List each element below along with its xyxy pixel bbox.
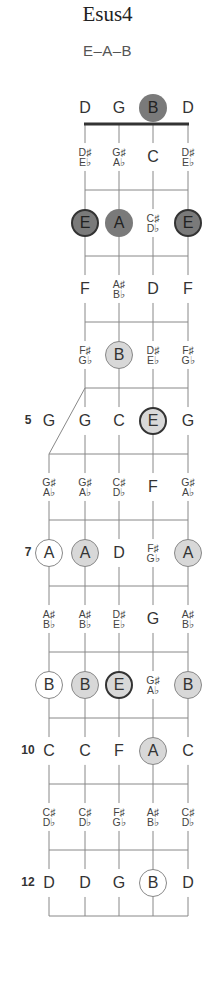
- note-b: B: [105, 341, 133, 369]
- note-label: G: [113, 874, 125, 892]
- note-label: B: [148, 99, 159, 117]
- note-accidental: G♯A♭: [35, 473, 63, 501]
- note-label: C: [182, 742, 194, 760]
- flat-label: G♭: [146, 553, 159, 563]
- note-label: D: [79, 99, 91, 117]
- note-g: G: [35, 407, 63, 435]
- fret-number-12: 12: [18, 875, 38, 889]
- note-a: A: [139, 737, 167, 765]
- fret-number-7: 7: [18, 545, 38, 559]
- enharmonic-label: A♯B♭: [113, 279, 125, 299]
- note-e: E: [139, 407, 167, 435]
- note-b: B: [35, 671, 63, 699]
- note-label: F: [183, 280, 193, 298]
- enharmonic-label: C♯D♭: [79, 807, 92, 827]
- flat-label: A♭: [113, 157, 125, 167]
- flat-label: B♭: [113, 289, 125, 299]
- flat-label: B♭: [182, 619, 194, 629]
- note-label: C: [43, 742, 55, 760]
- note-e: E: [105, 671, 133, 699]
- note-label: A: [114, 214, 125, 232]
- note-label: D: [79, 874, 91, 892]
- note-label: G: [147, 610, 159, 628]
- note-accidental: A♯B♭: [139, 803, 167, 831]
- note-e: E: [174, 209, 202, 237]
- note-label: F: [80, 280, 90, 298]
- flat-label: E♭: [79, 157, 91, 167]
- note-accidental: D♯E♭: [174, 143, 202, 171]
- note-c: C: [174, 737, 202, 765]
- note-label: E: [183, 214, 194, 232]
- note-a: A: [105, 209, 133, 237]
- enharmonic-label: A♯B♭: [79, 609, 91, 629]
- note-f: F: [71, 275, 99, 303]
- note-label: B: [114, 346, 125, 364]
- enharmonic-label: G♯A♭: [146, 675, 159, 695]
- note-b: B: [71, 671, 99, 699]
- enharmonic-label: C♯D♭: [43, 807, 56, 827]
- flat-label: D♭: [43, 817, 56, 827]
- note-accidental: F♯G♭: [174, 341, 202, 369]
- note-label: E: [148, 412, 159, 430]
- note-label: F: [148, 478, 158, 496]
- note-g: G: [139, 605, 167, 633]
- enharmonic-label: G♯A♭: [112, 147, 125, 167]
- note-label: G: [182, 412, 194, 430]
- note-label: G: [79, 412, 91, 430]
- note-label: G: [113, 99, 125, 117]
- note-accidental: F♯G♭: [139, 539, 167, 567]
- note-g: G: [105, 94, 133, 122]
- note-label: A: [148, 742, 159, 760]
- note-accidental: F♯G♭: [71, 341, 99, 369]
- flat-label: A♭: [147, 685, 159, 695]
- note-label: D: [182, 874, 194, 892]
- note-d: D: [174, 869, 202, 897]
- fret-number-10: 10: [18, 743, 38, 757]
- note-accidental: F♯G♭: [105, 803, 133, 831]
- note-label: D: [147, 280, 159, 298]
- enharmonic-label: D♯E♭: [182, 147, 195, 167]
- flat-label: D♭: [113, 487, 126, 497]
- flat-label: B♭: [43, 619, 55, 629]
- flat-label: G♭: [181, 355, 194, 365]
- enharmonic-label: F♯G♭: [78, 345, 91, 365]
- enharmonic-label: C♯D♭: [147, 213, 160, 233]
- note-c: C: [35, 737, 63, 765]
- note-label: C: [79, 742, 91, 760]
- note-accidental: A♯B♭: [174, 605, 202, 633]
- note-accidental: D♯E♭: [139, 341, 167, 369]
- note-label: A: [183, 544, 194, 562]
- note-label: E: [114, 676, 125, 694]
- enharmonic-label: D♯E♭: [147, 345, 160, 365]
- note-d: D: [174, 94, 202, 122]
- note-g: G: [105, 869, 133, 897]
- note-label: A: [44, 544, 55, 562]
- enharmonic-label: F♯G♭: [112, 807, 125, 827]
- note-c: C: [139, 143, 167, 171]
- enharmonic-label: D♯E♭: [113, 609, 126, 629]
- note-label: E: [80, 214, 91, 232]
- note-label: C: [147, 148, 159, 166]
- note-accidental: G♯A♭: [71, 473, 99, 501]
- note-d: D: [35, 869, 63, 897]
- note-label: B: [183, 676, 194, 694]
- enharmonic-label: A♯B♭: [182, 609, 194, 629]
- note-accidental: G♯A♭: [174, 473, 202, 501]
- note-d: D: [139, 275, 167, 303]
- flat-label: A♭: [43, 487, 55, 497]
- enharmonic-label: A♯B♭: [43, 609, 55, 629]
- fret-number-5: 5: [18, 413, 38, 427]
- flat-label: G♭: [78, 355, 91, 365]
- note-f: F: [105, 737, 133, 765]
- note-d: D: [105, 539, 133, 567]
- note-label: G: [43, 412, 55, 430]
- note-g: G: [71, 407, 99, 435]
- note-label: A: [80, 544, 91, 562]
- note-label: B: [148, 874, 159, 892]
- note-c: C: [105, 407, 133, 435]
- note-accidental: G♯A♭: [139, 671, 167, 699]
- note-label: D: [113, 544, 125, 562]
- note-a: A: [35, 539, 63, 567]
- flat-label: A♭: [79, 487, 91, 497]
- enharmonic-label: A♯B♭: [147, 807, 159, 827]
